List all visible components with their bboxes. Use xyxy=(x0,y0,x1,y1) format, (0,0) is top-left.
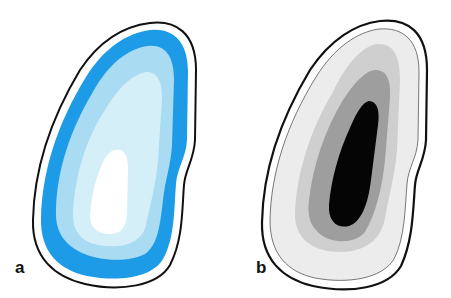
panel-a: a xyxy=(0,0,225,298)
panel-label-b: b xyxy=(256,259,266,276)
panel-b: b xyxy=(225,0,451,298)
contour-diagram-a xyxy=(0,0,225,298)
panel-label-a: a xyxy=(15,259,24,276)
contour-diagram-b xyxy=(225,0,451,298)
